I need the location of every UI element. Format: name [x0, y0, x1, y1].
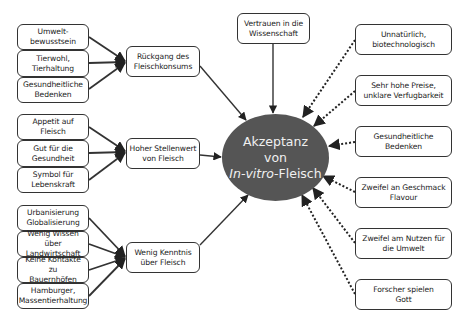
center-line-1: Akzeptanz [243, 134, 308, 150]
center-italic-term: In-vitro [229, 166, 274, 181]
leaf-umweltbewusstsein: Umwelt- bewusstsein [17, 24, 89, 50]
neg-zweifel-umwelt: Zweifel am Nutzen für die Umwelt [355, 228, 452, 259]
leaf-keine-kontakte: Keine Kontakte zu Bauernhöfen [17, 257, 89, 283]
neg-forscher-gott: Forscher spielen Gott [355, 279, 452, 310]
hub-wenig-kenntnis: Wenig Kenntnis über Fleisch [126, 242, 200, 273]
leaf-gesundheitliche-bedenken: Gesundheitliche Bedenken [17, 77, 89, 103]
neg-hohe-preise: Sehr hohe Preise, unklare Verfugbarkeit [355, 75, 452, 106]
hub-rueckgang-fleischkonsum: Rückgang des Fleischkonsums [126, 46, 200, 77]
center-line-2: von [264, 150, 287, 166]
neg-unnatuerlich: Unnatürlich, biotechnologisch [355, 24, 452, 55]
leaf-appetit: Appetit auf Fleisch [17, 114, 89, 140]
neg-gesundheitliche-bedenken: Gesundheitliche Bedenken [355, 126, 452, 157]
hub-hoher-stellenwert: Hoher Stellenwert von Fleisch [126, 138, 200, 169]
center-line-3: In-vitro-Fleisch [229, 166, 321, 182]
neg-zweifel-geschmack: Zweifel an Geschmack Flavour [355, 177, 452, 208]
leaf-symbol-lebenskraft: Symbol für Lebenskraft [17, 167, 89, 193]
center-line-3-rest: -Fleisch [274, 166, 322, 181]
leaf-gut-fuer-gesundheit: Gut für die Gesundheit [17, 140, 89, 167]
leaf-hamburger: Hamburger, Massentierhaltung [17, 283, 89, 309]
center-node-akzeptanz: Akzeptanz von In-vitro-Fleisch [222, 114, 329, 201]
leaf-wenig-wissen: Wenig Wissen über Landwirtschaft [17, 231, 89, 257]
leaf-urbanisierung: Urbanisierung Globalisierung [17, 205, 89, 231]
group1-arrows [89, 37, 125, 89]
group3-arrows [89, 218, 125, 296]
leaf-tierwohl: Tierwohl, Tierhaltung [17, 50, 89, 77]
group2-arrows [89, 127, 125, 180]
node-vertrauen-wissenschaft: Vertrauen in die Wissenschaft [237, 13, 310, 44]
